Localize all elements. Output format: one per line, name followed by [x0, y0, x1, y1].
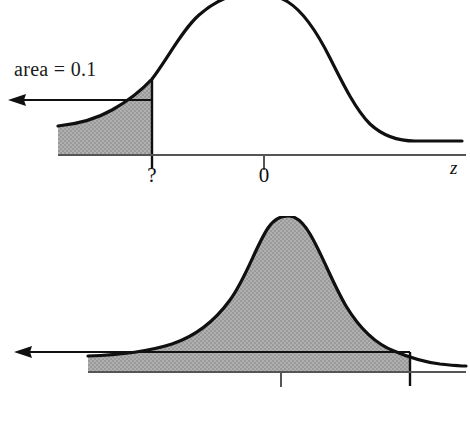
top-area-arrow-head: [8, 94, 26, 106]
axis-label-top-z: z: [450, 157, 457, 179]
top-curve-plot: [0, 0, 470, 216]
panel-top: area = 0.1 ? 0 z: [0, 0, 470, 216]
bottom-area-arrow-head: [14, 346, 32, 358]
area-label-top: area = 0.1: [14, 58, 97, 81]
tick-label-top-zero: 0: [249, 163, 279, 188]
normal-distribution-figure: area = 0.1 ? 0 z area = 0.98 0 ? z: [0, 0, 470, 432]
bottom-shaded-area: [88, 216, 410, 372]
panel-bottom: area = 0.98 0 ? z: [0, 216, 470, 432]
bottom-curve-plot: [0, 216, 470, 432]
tick-label-top-unknown: ?: [137, 163, 167, 188]
